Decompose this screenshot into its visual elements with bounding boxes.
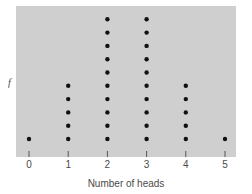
dot-mark <box>184 84 188 88</box>
dot-mark <box>105 137 109 141</box>
dot-mark <box>105 97 109 101</box>
plot-panel <box>16 6 236 157</box>
dot-mark <box>105 30 109 34</box>
dot-mark <box>105 124 109 128</box>
dot-mark <box>144 17 148 21</box>
dot-mark <box>144 137 148 141</box>
dot-mark <box>66 124 70 128</box>
dot-mark <box>66 97 70 101</box>
x-tick-label: 2 <box>105 159 111 170</box>
dot-mark <box>184 110 188 114</box>
x-axis-title: Number of heads <box>88 178 165 189</box>
dot-mark <box>105 110 109 114</box>
x-tick-labels: 012345 <box>26 159 228 170</box>
dot-mark <box>223 137 227 141</box>
x-tick-label: 4 <box>183 159 189 170</box>
dot-mark <box>105 17 109 21</box>
dot-mark <box>144 110 148 114</box>
dot-mark <box>105 70 109 74</box>
dot-mark <box>184 97 188 101</box>
dot-mark <box>144 84 148 88</box>
x-tick-label: 1 <box>65 159 71 170</box>
x-tick-label: 0 <box>26 159 32 170</box>
dot-mark <box>144 57 148 61</box>
dot-mark <box>66 110 70 114</box>
dot-mark <box>144 44 148 48</box>
dot-mark <box>66 137 70 141</box>
dot-mark <box>184 137 188 141</box>
x-tick-label: 5 <box>222 159 228 170</box>
dot-plot-chart: 012345 f Number of heads <box>0 0 252 194</box>
dot-mark <box>144 124 148 128</box>
dot-mark <box>105 84 109 88</box>
dot-mark <box>105 44 109 48</box>
y-axis-label: f <box>8 77 12 88</box>
dot-mark <box>66 84 70 88</box>
x-tick-label: 3 <box>144 159 150 170</box>
dot-mark <box>27 137 31 141</box>
dot-mark <box>144 30 148 34</box>
dot-mark <box>144 97 148 101</box>
dot-mark <box>105 57 109 61</box>
dot-mark <box>184 124 188 128</box>
dot-mark <box>144 70 148 74</box>
